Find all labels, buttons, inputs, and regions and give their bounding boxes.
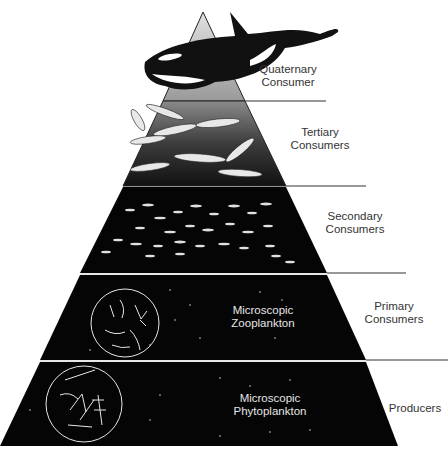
label-line: Consumers [280,139,360,152]
label-quaternary: Quaternary Consumer [248,63,328,89]
label-line: Producers [380,402,448,415]
label-line: Quaternary [248,63,328,76]
label-tertiary: Tertiary Consumers [280,126,360,152]
label-line: Primary [354,300,434,313]
label-producers: Producers [380,402,448,415]
label-phytoplankton: Microscopic Phytoplankton [225,392,315,418]
label-secondary: Secondary Consumers [313,210,397,236]
label-line: Zooplankton [218,317,308,330]
label-primary: Primary Consumers [354,300,434,326]
label-line: Consumers [313,223,397,236]
label-line: Tertiary [280,126,360,139]
label-zooplankton: Microscopic Zooplankton [218,304,308,330]
label-line: Microscopic [225,392,315,405]
label-line: Consumers [354,313,434,326]
label-line: Consumer [248,76,328,89]
label-line: Phytoplankton [225,405,315,418]
label-line: Microscopic [218,304,308,317]
label-line: Secondary [313,210,397,223]
level-primary [40,275,366,360]
